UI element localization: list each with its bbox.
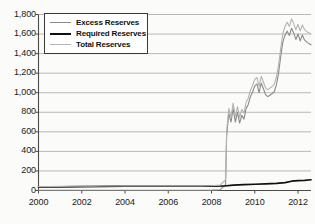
legend-item-required-reserves: Required Reserves	[47, 28, 144, 39]
legend-label-excess-reserves: Excess Reserves	[76, 18, 139, 27]
x-tick-label: 2002	[72, 197, 92, 207]
reserves-line-chart: 02004006008001,0001,2001,4001,6001,800 2…	[0, 0, 315, 224]
legend-label-total-reserves: Total Reserves	[76, 40, 130, 49]
x-tick-label: 2006	[158, 197, 178, 207]
x-tick-label: 2004	[115, 197, 135, 207]
chart-legend: Excess Reserves Required Reserves Total …	[44, 13, 148, 54]
legend-swatch-total-reserves	[50, 44, 71, 45]
legend-swatch-excess-reserves	[50, 22, 71, 23]
legend-swatch-required-reserves	[50, 33, 71, 35]
legend-item-excess-reserves: Excess Reserves	[47, 17, 144, 28]
legend-item-total-reserves: Total Reserves	[47, 39, 144, 50]
x-tick-label: 2012	[288, 197, 308, 207]
legend-label-required-reserves: Required Reserves	[76, 29, 146, 38]
x-tick-label: 2000	[29, 197, 49, 207]
x-tick-label: 2008	[202, 197, 222, 207]
x-tick-label: 2010	[245, 197, 265, 207]
